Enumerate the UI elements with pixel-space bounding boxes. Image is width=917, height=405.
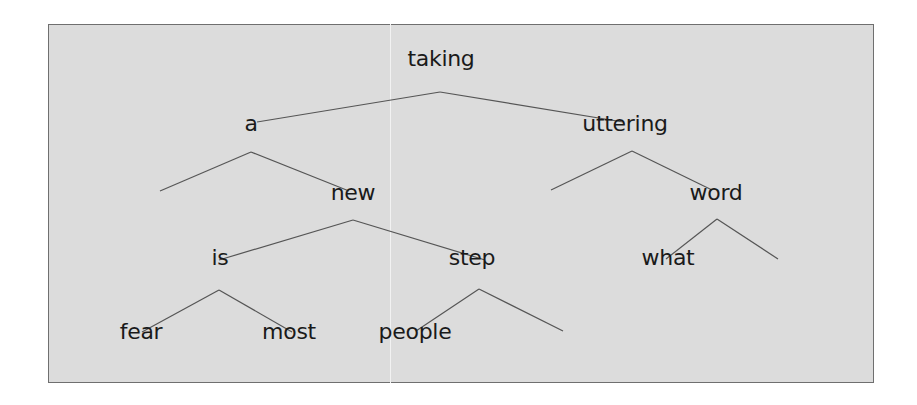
tree-node-new: new — [331, 182, 376, 204]
tree-node-word: word — [690, 182, 743, 204]
tree-edge — [160, 152, 251, 191]
tree-edge — [219, 220, 353, 260]
tree-edge — [257, 92, 440, 122]
tree-edge — [479, 289, 563, 331]
tree-node-fear: fear — [120, 321, 163, 343]
tree-node-a: a — [244, 113, 257, 135]
tree-edge — [551, 151, 632, 190]
tree-node-people: people — [379, 321, 452, 343]
tree-node-most: most — [262, 321, 316, 343]
tree-edge — [717, 219, 778, 259]
tree-node-is: is — [212, 247, 229, 269]
tree-node-step: step — [449, 247, 495, 269]
tree-node-taking: taking — [407, 48, 474, 70]
tree-node-what: what — [642, 247, 695, 269]
tree-node-uttering: uttering — [582, 113, 667, 135]
